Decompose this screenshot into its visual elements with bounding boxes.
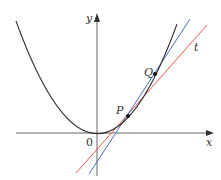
- x-axis-label: x: [206, 136, 213, 149]
- y-axis-label: y: [85, 12, 93, 25]
- point-p-label: P: [115, 104, 124, 117]
- tangent-line: [76, 25, 207, 173]
- point-q: [153, 72, 157, 76]
- point-q-label: Q: [144, 66, 153, 79]
- secant-line: [89, 19, 190, 174]
- tangent-secant-diagram: y x 0 P Q t: [0, 0, 221, 180]
- y-axis-arrow-icon: [94, 13, 100, 22]
- axes: [16, 13, 214, 176]
- tangent-label: t: [194, 41, 199, 54]
- point-p: [126, 114, 130, 118]
- origin-label: 0: [86, 136, 93, 149]
